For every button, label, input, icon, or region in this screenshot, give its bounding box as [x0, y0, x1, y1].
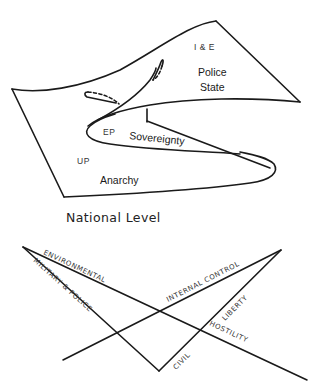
trajectory-loop-solid — [153, 60, 163, 80]
label-police: Police — [198, 66, 227, 78]
top-sheet-fold-edge — [88, 99, 300, 126]
folded-surface — [12, 21, 300, 197]
label-sovereignty: Sovereignty — [129, 129, 186, 147]
label-anarchy: Anarchy — [100, 174, 139, 186]
left-edge — [12, 89, 64, 197]
caption-national-level: National Level — [66, 210, 161, 225]
label-internal-control: INTERNAL CONTROL — [165, 260, 241, 304]
label-up: UP — [77, 156, 90, 166]
label-civil: CIVIL — [172, 351, 192, 371]
top-sheet-right-edge — [216, 21, 300, 102]
label-ie: I & E — [194, 42, 215, 52]
axis-internal-control — [63, 250, 281, 360]
label-ep: EP — [103, 127, 115, 137]
top-sheet-upper-edge — [12, 21, 216, 91]
label-state: State — [200, 81, 225, 93]
axes-diagram — [23, 247, 307, 380]
catastrophe-diagram: I & E Police State EP Sovereignty UP Ana… — [0, 0, 322, 391]
label-hostility: HOSTILITY — [208, 320, 249, 345]
label-liberty: LIBERTY — [221, 294, 250, 323]
